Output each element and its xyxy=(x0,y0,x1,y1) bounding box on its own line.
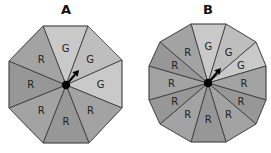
segment-label: R xyxy=(171,96,178,107)
segment-label: G xyxy=(204,41,212,52)
segment-label: R xyxy=(225,109,232,120)
segment-label: R xyxy=(38,54,45,65)
segment-label: R xyxy=(184,109,191,120)
spinner-b-title: B xyxy=(203,2,213,17)
segment-label: R xyxy=(38,105,45,116)
segment-label: G xyxy=(62,43,70,54)
segment-label: R xyxy=(168,78,175,89)
segment-label: R xyxy=(241,78,248,89)
segment-label: G xyxy=(225,47,233,58)
segment-label: R xyxy=(63,116,70,127)
spinner-a: A GGGRRRRR xyxy=(9,2,122,143)
segment-label: R xyxy=(205,114,212,125)
spinner-b: B GGGRRRRRRRRR xyxy=(149,2,266,142)
segment-label: R xyxy=(237,96,244,107)
spinner-hub xyxy=(204,79,212,87)
spinner-a-title: A xyxy=(61,2,71,17)
spinner-hub xyxy=(62,81,70,89)
segment-label: R xyxy=(171,60,178,71)
segment-label: R xyxy=(27,79,34,90)
segment-label: G xyxy=(97,79,105,90)
spinner-diagram: A GGGRRRRR B GGGRRRRRRRRR xyxy=(0,0,271,153)
segment-label: G xyxy=(237,60,245,71)
segment-label: R xyxy=(87,105,94,116)
segment-label: R xyxy=(184,47,191,58)
segment-label: G xyxy=(86,54,94,65)
